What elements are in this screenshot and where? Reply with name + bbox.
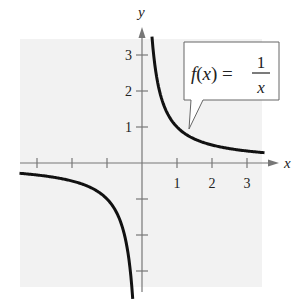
x-tick-label: 1 <box>174 176 181 191</box>
function-denominator: x <box>256 78 265 97</box>
x-axis-label: x <box>283 155 291 171</box>
y-axis-label: y <box>136 4 145 20</box>
x-tick-label: 3 <box>244 176 251 191</box>
y-tick-label: 3 <box>125 48 132 63</box>
function-numerator: 1 <box>257 53 266 72</box>
chart: 123123 f(x) = 1 x x y <box>0 0 306 305</box>
y-tick-label: 1 <box>125 120 132 135</box>
x-axis-arrow-icon <box>268 160 279 167</box>
y-tick-label: 2 <box>125 84 132 99</box>
x-tick-label: 2 <box>209 176 216 191</box>
y-axis-arrow-icon <box>139 27 146 38</box>
function-lhs: f(x) = <box>191 63 233 85</box>
